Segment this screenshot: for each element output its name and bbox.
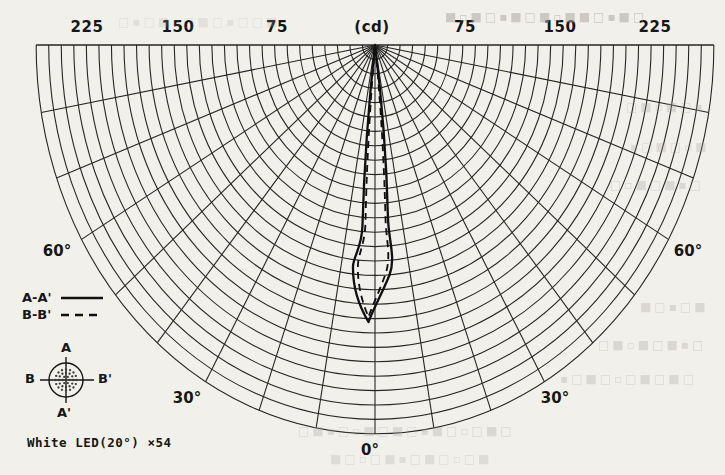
device-caption: White LED(20°) ×54	[27, 435, 171, 450]
legend-solid-line-sample	[61, 295, 103, 301]
polar-intensity-chart	[0, 0, 725, 475]
angle-label-0: 0°	[361, 441, 379, 459]
scanned-datasheet-page: 225 150 75 (cd) 75 150 225 60° 60° 30° 3…	[0, 0, 725, 475]
scale-label-225-left: 225	[71, 18, 104, 36]
legend-label-aa: A-A'	[22, 290, 55, 305]
icon-axis-label-b: B	[25, 371, 35, 386]
icon-axis-label-b-prime: B'	[98, 371, 112, 386]
scale-unit-label-cd: (cd)	[354, 18, 389, 36]
scale-label-75-left: 75	[266, 18, 288, 36]
polar-grid	[36, 0, 714, 434]
scale-label-150-left: 150	[162, 18, 195, 36]
legend-label-bb: B-B'	[22, 307, 55, 322]
legend-row-bb: B-B'	[22, 306, 103, 323]
scale-label-75-right: 75	[454, 18, 476, 36]
angle-label-60-left: 60°	[43, 242, 71, 260]
angle-label-30-right: 30°	[541, 389, 569, 407]
icon-axis-label-a: A	[61, 340, 71, 355]
legend-row-aa: A-A'	[22, 289, 103, 306]
angle-label-60-right: 60°	[674, 242, 702, 260]
legend-dashed-line-sample	[61, 312, 103, 318]
icon-axis-label-a-prime: A'	[57, 405, 71, 420]
scale-label-225-right: 225	[639, 18, 672, 36]
angle-label-30-left: 30°	[173, 389, 201, 407]
legend: A-A' B-B'	[22, 289, 103, 323]
scale-label-150-right: 150	[544, 18, 577, 36]
led-cluster-icon	[40, 357, 94, 403]
